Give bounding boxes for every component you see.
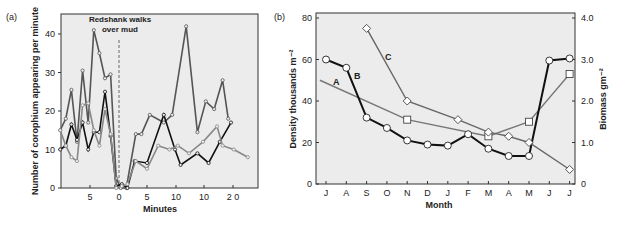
x-tick-label: 10 — [171, 192, 181, 202]
panel-a-plot-area — [61, 14, 258, 188]
y-tick-label: 2.0 — [581, 96, 594, 106]
x-tick-label: 2 0 — [227, 192, 240, 202]
x-tick-label: N — [404, 188, 411, 198]
y-tick-label: 40 — [302, 96, 312, 106]
x-tick-label: M — [485, 188, 493, 198]
x-tick-label: M — [525, 188, 533, 198]
x-tick-label: J — [324, 188, 329, 198]
panel-b-x-axis-label: Month — [426, 200, 453, 210]
panel-a-y-axis: 010203040 — [45, 29, 61, 193]
panel-b-label: (b) — [274, 12, 285, 22]
x-tick-label: 5 — [87, 192, 92, 202]
y-tick-label: 0 — [581, 179, 586, 189]
y-tick-label: 20 — [45, 106, 55, 116]
panel-b-plot-area — [316, 13, 575, 184]
series-label-b: B — [354, 71, 361, 81]
y-tick-label: 60 — [302, 55, 312, 65]
x-tick-label: 0 — [116, 192, 121, 202]
y-tick-label: 80 — [302, 13, 312, 23]
series-label-c: C — [385, 52, 392, 62]
panel-a: (a) 010203040 50510102 0 Number of corop… — [6, 7, 258, 214]
y-tick-label: 3.0 — [581, 55, 594, 65]
y-tick-label: 0 — [50, 183, 55, 193]
x-tick-label: S — [364, 188, 370, 198]
annotation-line-2: over mud — [102, 25, 138, 34]
y-tick-label: 1.0 — [581, 138, 594, 148]
x-tick-label: 5 — [144, 192, 149, 202]
y-tick-label: 0 — [307, 179, 312, 189]
panel-a-y-axis-label: Number of corophium appearing per minute — [30, 7, 40, 195]
x-tick-label: J — [567, 188, 572, 198]
y-tick-label: 30 — [45, 68, 55, 78]
panel-b: (b) 020406080 01.02.03.04.0 JASONDJFMAMJ… — [274, 12, 608, 210]
y-tick-label: 20 — [302, 138, 312, 148]
series-label-a: A — [333, 77, 340, 87]
figure: (a) 010203040 50510102 0 Number of corop… — [0, 0, 622, 226]
x-tick-label: D — [424, 188, 431, 198]
y-tick-label: 10 — [45, 145, 55, 155]
panel-b-left-axis-label: Density thousands m⁻² — [288, 49, 298, 148]
panel-b-right-axis-label: Biomass gm⁻² — [598, 68, 608, 130]
x-tick-label: F — [465, 188, 471, 198]
x-tick-label: O — [383, 188, 390, 198]
x-tick-label: J — [547, 188, 552, 198]
panel-a-x-axis-label: Minutes — [143, 204, 177, 214]
x-tick-label: J — [446, 188, 451, 198]
y-tick-label: 40 — [45, 29, 55, 39]
x-tick-label: A — [506, 188, 512, 198]
x-tick-label: A — [343, 188, 349, 198]
panel-a-label: (a) — [6, 12, 17, 22]
x-tick-label: 10 — [199, 192, 209, 202]
y-tick-label: 4.0 — [581, 13, 594, 23]
annotation-line-1: Redshank walks — [89, 15, 152, 24]
